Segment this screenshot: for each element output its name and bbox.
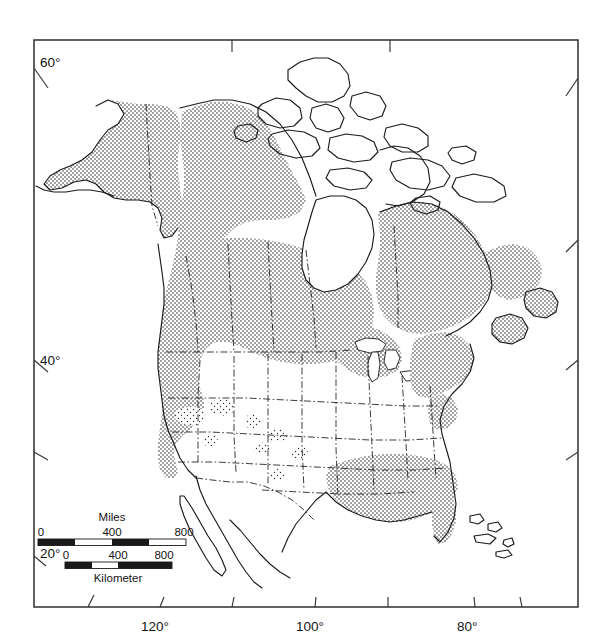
- lat-label-60: 60°: [40, 55, 60, 70]
- scale-km-tick-0: 0: [63, 549, 69, 561]
- lat-label-40: 40°: [40, 353, 60, 368]
- scale-miles-title: Miles: [99, 511, 126, 523]
- scale-miles-tick-0: 0: [38, 526, 44, 538]
- lon-label-80: 80°: [457, 619, 477, 634]
- north-america-distribution-map: 60° 40° 20° 120° 100° 80° Miles 0 400 80…: [0, 0, 611, 642]
- scale-miles-tick-800: 800: [174, 526, 193, 538]
- map-canvas: 60° 40° 20° 120° 100° 80° Miles 0 400 80…: [0, 0, 611, 642]
- scale-miles-bar: [38, 539, 186, 546]
- scale-km-bar: [65, 562, 172, 569]
- lat-label-20: 20°: [40, 546, 60, 561]
- scale-km-tick-400: 400: [108, 549, 127, 561]
- lon-label-100: 100°: [296, 619, 324, 634]
- lake-michigan-water: [368, 352, 380, 382]
- scale-miles-tick-400: 400: [102, 526, 121, 538]
- scale-km-title: Kilometer: [94, 572, 143, 584]
- lon-label-120: 120°: [141, 619, 169, 634]
- scale-km-tick-800: 800: [154, 549, 173, 561]
